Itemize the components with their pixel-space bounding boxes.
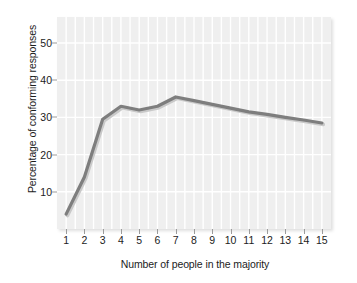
y-tick-label: 40	[30, 74, 52, 86]
x-tick-mark	[304, 229, 305, 234]
x-tick-mark	[231, 229, 232, 234]
y-axis-tick-labels: 1020304050	[26, 17, 52, 229]
x-tick-mark	[66, 229, 67, 234]
x-tick-mark	[322, 229, 323, 234]
x-tick-mark	[194, 229, 195, 234]
x-tick-mark	[157, 229, 158, 234]
chart-canvas	[57, 17, 331, 229]
x-tick-label: 15	[309, 234, 335, 246]
y-tick-label: 10	[30, 186, 52, 198]
x-tick-mark	[103, 229, 104, 234]
x-tick-mark	[176, 229, 177, 234]
x-tick-mark	[285, 229, 286, 234]
x-tick-mark	[212, 229, 213, 234]
x-tick-mark	[267, 229, 268, 234]
x-tick-mark	[249, 229, 250, 234]
x-axis-tick-labels: 123456789101112131415	[57, 234, 331, 250]
chart-figure: Percentage of conforming responses 10203…	[0, 0, 357, 283]
x-tick-mark	[121, 229, 122, 234]
x-tick-mark	[84, 229, 85, 234]
y-tick-label: 20	[30, 149, 52, 161]
y-tick-label: 30	[30, 111, 52, 123]
x-tick-mark	[139, 229, 140, 234]
plot-area	[57, 17, 331, 229]
x-axis-title: Number of people in the majority	[55, 258, 335, 270]
y-tick-label: 50	[30, 37, 52, 49]
